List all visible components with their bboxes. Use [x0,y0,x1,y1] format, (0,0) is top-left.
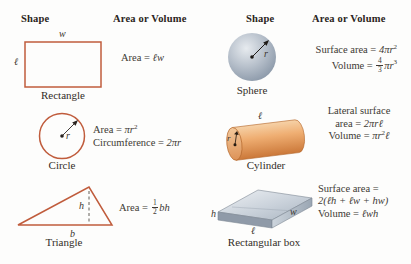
cylinder-lateral-line1: Lateral surface [315,105,403,118]
four-thirds-fraction: 43 [376,57,383,74]
rectangle-area-formula: Area = ℓw [121,52,164,63]
rectangle-length-label: ℓ [14,56,18,67]
box-formulas: Surface area = 2(ℓh + ℓw + hw) Volume = … [318,183,388,220]
rectangle-caption: Rectangle [41,89,85,101]
rectangle-area-prefix: Area = [121,52,153,63]
one-half-fraction: 12 [152,199,159,216]
triangle-diagram [13,182,118,232]
right-area-volume-header: Area or Volume [312,13,386,24]
rectangle-width-label: w [59,28,66,39]
circle-area-exponent: 2 [134,123,138,131]
fraction-denominator: 2 [152,208,159,216]
triangle-area-formula: Area = 12bh [119,199,170,216]
cylinder-volume-tail: ℓ [385,130,389,141]
circle-radius-label: r [66,130,70,141]
rectangle-diagram [20,37,110,92]
box-volume-prefix: Volume = [318,208,362,219]
fraction-denominator: 3 [376,66,383,74]
box-surface-line2: 2(ℓh + ℓw + hw) [318,195,388,207]
sphere-volume-math: πr [384,60,393,71]
box-length-label: ℓ [251,225,255,236]
sphere-surface-math: 4πr [379,44,394,55]
sphere-surface-prefix: Surface area = [316,44,379,55]
circle-area-formula: Area = πr2 [93,123,181,136]
sphere-volume-formula: Volume = 43πr3 [297,57,397,74]
box-volume-formula: Volume = ℓwh [318,208,388,220]
cylinder-volume-prefix: Volume = [329,130,373,141]
left-area-volume-header: Area or Volume [113,13,187,24]
cylinder-lateral-math: 2πrℓ [364,118,383,129]
box-width-label: w [290,206,297,217]
cylinder-lateral-prefix: area = [335,118,364,129]
right-shape-header: Shape [246,13,274,24]
circle-caption: Circle [49,159,76,171]
rectangle-area-math: ℓw [153,52,164,63]
cylinder-radius-label: r [227,133,231,143]
cylinder-lateral-formula: area = 2πrℓ [315,118,403,131]
box-volume-math: ℓwh [362,208,379,219]
cylinder-caption: Cylinder [247,159,286,171]
circle-diagram [36,110,90,164]
circle-area-prefix: Area = [93,124,125,135]
circle-circumference-formula: Circumference = 2πr [93,136,181,149]
circle-radius-arrow [62,120,78,136]
circle-formulas: Area = πr2 Circumference = 2πr [93,123,181,149]
cylinder-volume-formula: Volume = πr2ℓ [315,130,403,143]
sphere-diagram [227,32,279,84]
triangle-caption: Triangle [46,236,83,248]
cylinder-length-label: ℓ [258,110,262,121]
sphere-radius-label: r [264,48,268,59]
cylinder-formulas: Lateral surface area = 2πrℓ Volume = πr2… [315,105,403,143]
sphere-formulas: Surface area = 4πr2 Volume = 43πr3 [297,42,397,74]
circle-area-math: πr [125,124,134,135]
geometry-formula-sheet: Shape Area or Volume Shape Area or Volum… [0,0,411,264]
rectangular-box-caption: Rectangular box [228,236,300,248]
sphere-caption: Sphere [237,84,268,96]
sphere-surface-exponent: 2 [394,43,398,51]
triangle-height-label: h [79,200,84,211]
box-surface-line1: Surface area = [318,183,388,195]
cylinder-volume-math: πr [372,130,381,141]
sphere-volume-prefix: Volume = [332,60,376,71]
rectangular-box-diagram [210,185,318,235]
sphere-surface-formula: Surface area = 4πr2 [297,42,397,57]
circle-circumference-math: 2πr [167,137,182,148]
triangle-area-prefix: Area = [119,202,151,213]
left-shape-header: Shape [21,13,49,24]
box-height-label: h [211,208,216,219]
sphere-volume-exponent: 3 [394,58,398,66]
circle-circumference-prefix: Circumference = [93,137,167,148]
triangle-area-math: bh [159,202,170,213]
